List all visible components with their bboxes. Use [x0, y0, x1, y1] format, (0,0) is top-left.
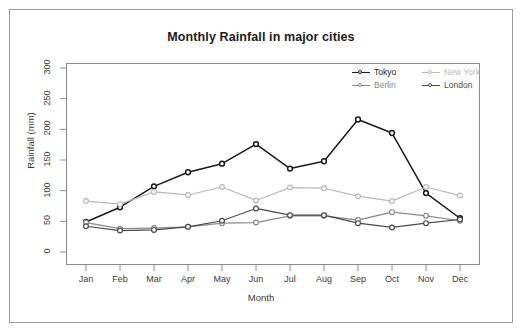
legend-label: Tokyo: [374, 67, 396, 77]
y-tick-label: 100: [42, 177, 52, 203]
legend-line-marker-icon: [352, 85, 370, 86]
y-tick-label: 300: [42, 54, 52, 80]
legend-label: New York: [444, 67, 480, 77]
x-axis-label: Month: [0, 292, 522, 303]
legend-line-marker-icon: [422, 72, 440, 73]
legend-label: London: [444, 80, 472, 90]
legend-label: Berlin: [374, 80, 396, 90]
legend-line-marker-icon: [422, 85, 440, 86]
chart-title: Monthly Rainfall in major cities: [0, 30, 522, 44]
y-tick-label: 200: [42, 115, 52, 141]
chart-legend: TokyoNew YorkBerlinLondon: [352, 68, 480, 94]
x-tick-label: Dec: [440, 274, 480, 284]
legend-line-marker-icon: [352, 72, 370, 73]
y-tick-label: 250: [42, 85, 52, 111]
y-axis-label: Rainfall (mm): [25, 81, 36, 201]
y-tick-label: 0: [42, 238, 52, 264]
y-tick-label: 50: [42, 207, 52, 233]
chart-figure: Monthly Rainfall in major cities Rainfal…: [0, 0, 522, 332]
y-tick-label: 150: [42, 146, 52, 172]
